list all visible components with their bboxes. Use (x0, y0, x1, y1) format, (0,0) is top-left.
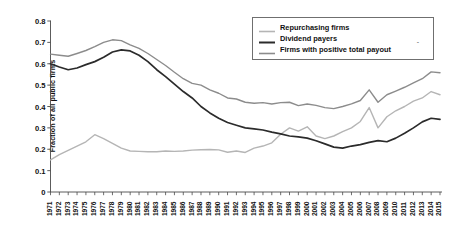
x-axis-tick-label: 1985 (170, 202, 177, 216)
x-axis-tick-label: 2014 (427, 202, 434, 216)
y-axis-tick-label: 0.7 (4, 38, 46, 47)
x-axis-tick-label: 1973 (64, 202, 71, 216)
x-axis-tick-label: 2013 (418, 202, 425, 216)
x-axis-tick-label: 1987 (188, 202, 195, 216)
x-axis-tick-label: 1977 (99, 202, 106, 216)
y-axis-tick-label: 0.1 (4, 166, 46, 175)
x-axis-tick-label: 1972 (55, 202, 62, 216)
x-axis-tick-label: 1982 (143, 202, 150, 216)
y-axis-tick-label: 0.5 (4, 81, 46, 90)
y-axis-tick-label: 0.8 (4, 17, 46, 26)
x-axis-tick-label: 1998 (285, 202, 292, 216)
x-axis-tick-label: 2012 (409, 202, 416, 216)
legend-label-repurchasing: Repurchasing firms (280, 22, 349, 33)
x-axis-tick-label: 2002 (320, 202, 327, 216)
x-axis-tick-label: 2007 (365, 202, 372, 216)
x-axis-tick-label: 1991 (223, 202, 230, 216)
x-axis-tick-label: 1997 (276, 202, 283, 216)
x-axis-tick-label: 1983 (152, 202, 159, 216)
x-axis-tick-label: 1979 (117, 202, 124, 216)
x-axis-tick-label: 2009 (382, 202, 389, 216)
legend: Repurchasing firms Dividend payers - Fir… (252, 17, 434, 60)
y-axis-tick-label: 0 (4, 188, 46, 197)
x-axis-tick-label: 2001 (311, 202, 318, 216)
x-axis-tick-label: 1993 (241, 202, 248, 216)
y-axis-tick-label: 0.3 (4, 123, 46, 132)
x-axis-tick-label: 1995 (258, 202, 265, 216)
x-axis-tick-label: 2015 (435, 202, 442, 216)
x-axis-tick-label: 2011 (400, 202, 407, 216)
x-axis-tick-label: 1989 (205, 202, 212, 216)
x-axis-tick-label: 1975 (81, 202, 88, 216)
x-axis-tick-label: 2006 (356, 202, 363, 216)
legend-item-dividend: Dividend payers - (259, 33, 426, 44)
legend-label-total-payout: Firms with positive total payout (280, 44, 391, 55)
x-axis-tick-label: 1992 (232, 202, 239, 216)
x-axis-tick-label: 1999 (294, 202, 301, 216)
x-axis-tick-label: 1988 (196, 202, 203, 216)
x-axis-tick-label: 2010 (391, 202, 398, 216)
chart-container: Fraction of all public firms 00.10.20.30… (0, 0, 452, 229)
x-axis-tick-label: 2003 (329, 202, 336, 216)
x-axis-tick-label: 2008 (373, 202, 380, 216)
x-axis-tick-label: 1984 (161, 202, 168, 216)
x-axis-tick-label: 1980 (126, 202, 133, 216)
legend-item-total-payout: Firms with positive total payout (259, 44, 426, 55)
y-axis-tick-label: 0.2 (4, 145, 46, 154)
x-axis-tick-label: 2000 (303, 202, 310, 216)
x-axis-tick-label: 1990 (214, 202, 221, 216)
legend-label-dividend: Dividend payers (280, 33, 337, 44)
y-axis-tick-label: 0.6 (4, 59, 46, 68)
x-axis-tick-label: 2004 (338, 202, 345, 216)
x-axis-tick-label: 1974 (72, 202, 79, 216)
x-axis-tick-label: 1971 (46, 202, 53, 216)
y-axis-tick-label: 0.4 (4, 102, 46, 111)
x-axis-tick-label: 1981 (134, 202, 141, 216)
x-axis-tick-label: 1978 (108, 202, 115, 216)
x-axis-tick-label: 2005 (347, 202, 354, 216)
x-axis-tick-label: 1976 (90, 202, 97, 216)
x-axis-tick-label: 1996 (267, 202, 274, 216)
legend-item-repurchasing: Repurchasing firms (259, 22, 426, 33)
x-axis-tick-label: 1986 (179, 202, 186, 216)
legend-swatch-total-payout (259, 41, 275, 59)
legend-stray-dash: - (417, 38, 419, 45)
x-axis-tick-label: 1994 (250, 202, 257, 216)
